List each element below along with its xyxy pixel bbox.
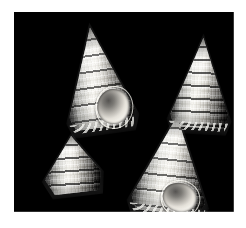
shell-specimen-upper-left: [57, 23, 136, 132]
shell-specimen-lower-left: [42, 134, 102, 196]
shell-body: [130, 112, 214, 212]
photo-field: [14, 12, 234, 212]
shell-body: [57, 23, 136, 132]
shell-shading: [42, 134, 102, 196]
shell-body: [42, 134, 102, 196]
shell-photograph-plate: [0, 0, 246, 228]
shell-specimen-lower-right: [130, 112, 214, 212]
